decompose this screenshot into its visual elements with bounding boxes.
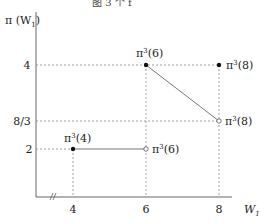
point-pi3-8-open bbox=[217, 119, 221, 123]
label-pi3-8-lower: π3(8) bbox=[225, 115, 252, 128]
label-pi3-8-upper: π3(8) bbox=[226, 59, 253, 72]
label-pi3-6-upper: π3(6) bbox=[136, 47, 163, 60]
point-pi3-8-filled bbox=[217, 63, 221, 67]
point-pi3-4 bbox=[71, 147, 75, 151]
point-pi3-6 bbox=[144, 63, 148, 67]
x-axis-label: W1 bbox=[244, 203, 260, 218]
y-axis-label: π (W1) bbox=[5, 14, 40, 29]
chart: π (W1) 4 8/3 2 4 6 8 W1 π3(4) π3(6) π3(6… bbox=[0, 0, 265, 224]
x-tick-6: 6 bbox=[143, 203, 150, 216]
label-pi3-4: π3(4) bbox=[64, 132, 91, 145]
y-tick-4: 4 bbox=[24, 59, 31, 72]
axis-break-icon bbox=[50, 193, 56, 200]
y-tick-8-3: 8/3 bbox=[13, 115, 31, 128]
x-tick-8: 8 bbox=[216, 203, 223, 216]
point-pi3-6-open bbox=[144, 147, 148, 151]
guide-lines bbox=[36, 65, 219, 197]
x-tick-4: 4 bbox=[70, 203, 77, 216]
segment-upper bbox=[146, 65, 219, 121]
y-tick-2: 2 bbox=[26, 143, 33, 156]
label-pi3-6-lower: π3(6) bbox=[152, 143, 179, 156]
